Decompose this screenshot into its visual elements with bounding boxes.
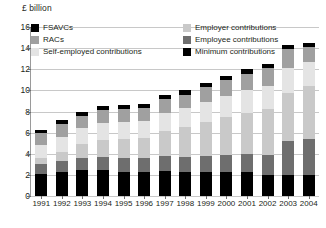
legend-label-fsavcs: FSAVCs — [43, 24, 73, 32]
bar-segment-minimum — [97, 170, 109, 196]
bar-segment-racs — [220, 80, 232, 96]
bar-segment-self_employed — [118, 122, 130, 139]
bar-segment-employee — [200, 156, 212, 172]
x-axis-tick-mark — [288, 196, 289, 199]
bar-2003[interactable] — [282, 45, 294, 196]
legend-item-racs[interactable]: RACs — [31, 34, 183, 46]
gridline — [31, 90, 319, 91]
legend-item-self_employed[interactable]: Self-employed contributions — [31, 46, 183, 58]
bar-segment-employee — [76, 158, 88, 170]
y-axis-tick-mark — [27, 48, 31, 49]
bar-segment-employer — [200, 122, 212, 156]
y-axis-tick-mark — [27, 69, 31, 70]
bar-segment-employer — [56, 152, 68, 162]
x-axis-tick-mark — [62, 196, 63, 199]
bar-1995[interactable] — [118, 105, 130, 196]
legend-label-employee: Employee contributions — [195, 36, 278, 44]
bar-1992[interactable] — [56, 120, 68, 196]
y-axis-tick-mark — [27, 196, 31, 197]
bar-1991[interactable] — [35, 130, 47, 197]
legend-item-employer[interactable]: Employer contributions — [183, 22, 319, 34]
legend-swatch-self_employed — [31, 48, 39, 56]
chart-root: £ billion 0246810121416 FSAVCsRACsSelf-e… — [0, 0, 326, 228]
bar-segment-self_employed — [159, 113, 171, 131]
x-axis-tick-mark — [226, 196, 227, 199]
y-axis-tick-mark — [27, 27, 31, 28]
legend-swatch-racs — [31, 36, 39, 44]
x-axis-tick-mark — [247, 196, 248, 199]
x-axis-tick-mark — [309, 196, 310, 199]
x-axis-tick-mark — [185, 196, 186, 199]
bar-segment-self_employed — [97, 123, 109, 140]
legend-column-1: FSAVCsRACsSelf-employed contributions — [31, 22, 183, 58]
legend-item-fsavcs[interactable]: FSAVCs — [31, 22, 183, 34]
bar-segment-self_employed — [282, 68, 294, 92]
bar-segment-employee — [179, 157, 191, 172]
bar-2000[interactable] — [220, 76, 232, 196]
legend-label-racs: RACs — [43, 36, 64, 44]
legend-label-self_employed: Self-employed contributions — [43, 48, 142, 56]
bar-segment-minimum — [241, 172, 253, 196]
bar-segment-self_employed — [35, 145, 47, 158]
legend-item-minimum[interactable]: Minimum contributions — [183, 46, 319, 58]
x-axis-tick-mark — [124, 196, 125, 199]
bar-segment-racs — [138, 108, 150, 121]
bar-segment-employer — [262, 109, 274, 154]
bar-2002[interactable] — [262, 64, 274, 196]
bar-segment-employee — [159, 156, 171, 171]
bar-segment-minimum — [35, 174, 47, 196]
bar-segment-employee — [138, 158, 150, 172]
y-axis-tick-mark — [27, 112, 31, 113]
gridline — [31, 154, 319, 155]
gridline — [31, 133, 319, 134]
bar-segment-minimum — [118, 172, 130, 196]
bar-segment-employee — [56, 161, 68, 172]
bar-segment-employee — [241, 154, 253, 172]
legend-swatch-employee — [183, 36, 191, 44]
x-axis-tick-mark — [165, 196, 166, 199]
bar-segment-self_employed — [303, 62, 315, 86]
bar-segment-employee — [262, 155, 274, 175]
bar-segment-minimum — [220, 172, 232, 196]
gridline — [31, 196, 319, 197]
bar-segment-minimum — [159, 171, 171, 196]
y-axis-tick-mark — [27, 175, 31, 176]
bar-segment-racs — [200, 87, 212, 102]
bar-segment-racs — [179, 95, 191, 109]
bar-segment-employer — [97, 140, 109, 157]
x-axis-tick-mark — [103, 196, 104, 199]
bar-segment-self_employed — [220, 96, 232, 117]
x-axis-tick-mark — [41, 196, 42, 199]
bar-segment-racs — [118, 109, 130, 122]
bar-1998[interactable] — [179, 90, 191, 196]
bar-segment-employer — [220, 117, 232, 155]
bar-segment-self_employed — [262, 86, 274, 109]
legend-swatch-employer — [183, 24, 191, 32]
bar-segment-employer — [76, 144, 88, 158]
bar-segment-employer — [138, 138, 150, 158]
legend-item-employee[interactable]: Employee contributions — [183, 34, 319, 46]
bar-segment-minimum — [76, 170, 88, 196]
bar-segment-employee — [220, 155, 232, 172]
bar-1993[interactable] — [76, 112, 88, 196]
bar-2001[interactable] — [241, 69, 253, 196]
y-axis-tick-mark — [27, 133, 31, 134]
gridline — [31, 69, 319, 70]
bar-segment-employer — [159, 131, 171, 156]
bar-segment-minimum — [179, 172, 191, 196]
y-axis-tick-mark — [27, 154, 31, 155]
x-axis-tick-mark — [144, 196, 145, 199]
bar-segment-employee — [35, 164, 47, 174]
bar-segment-racs — [241, 74, 253, 91]
bar-segment-employer — [241, 113, 253, 154]
bar-1999[interactable] — [200, 83, 212, 196]
bar-2004[interactable] — [303, 43, 315, 196]
bar-1996[interactable] — [138, 104, 150, 196]
bar-segment-employer — [282, 93, 294, 142]
x-axis-tick-mark — [82, 196, 83, 199]
bar-1997[interactable] — [159, 95, 171, 196]
bar-segment-racs — [262, 68, 274, 86]
bar-segment-employee — [118, 158, 130, 172]
bar-1994[interactable] — [97, 106, 109, 196]
x-axis-tick-mark — [268, 196, 269, 199]
